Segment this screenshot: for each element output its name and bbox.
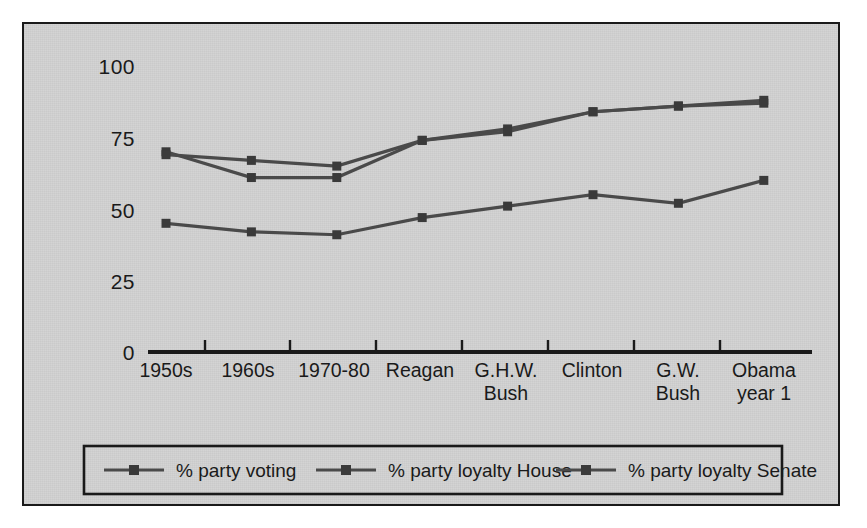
series-line-2 xyxy=(166,100,764,177)
data-point-marker xyxy=(674,199,683,208)
data-point-marker xyxy=(503,127,512,136)
x-tick-label-6-line1: G.W. xyxy=(656,359,699,381)
data-point-marker xyxy=(759,99,768,108)
data-point-marker xyxy=(162,150,171,159)
data-point-marker xyxy=(247,227,256,236)
data-point-marker xyxy=(418,136,427,145)
x-tick-label-1-line1: 1960s xyxy=(221,359,274,381)
legend-entry-party-loyalty-senate[interactable]: % party loyalty Senate xyxy=(556,460,817,481)
x-tick-label-0-line1: 1950s xyxy=(139,359,192,381)
legend-entry-party-loyalty-house[interactable]: % party loyalty House xyxy=(316,460,572,481)
chart-figure: 100 75 50 25 0 1950s 1960s 1970-80 R xyxy=(0,0,867,528)
x-tick-label-2-line1: 1970-80 xyxy=(298,359,370,381)
x-tick-label-6-line2: Bush xyxy=(656,382,700,404)
y-tick-label-0: 0 xyxy=(123,341,135,364)
data-point-marker xyxy=(332,173,341,182)
legend-square-marker-0 xyxy=(129,465,139,475)
y-tick-label-25: 25 xyxy=(111,270,135,293)
data-point-marker xyxy=(162,219,171,228)
y-axis-labels: 100 75 50 25 0 xyxy=(98,55,135,364)
data-point-marker xyxy=(759,176,768,185)
data-point-marker xyxy=(589,190,598,199)
y-tick-label-50: 50 xyxy=(111,199,135,222)
x-tick-label-4-line1: G.H.W. xyxy=(475,359,538,381)
x-tick-label-4-line2: Bush xyxy=(484,382,528,404)
data-point-marker xyxy=(674,102,683,111)
chart-plot-area: 100 75 50 25 0 1950s 1960s 1970-80 R xyxy=(0,0,867,528)
x-tick-label-5-line1: Clinton xyxy=(562,359,623,381)
data-point-marker xyxy=(418,213,427,222)
data-point-marker xyxy=(503,202,512,211)
x-tick-label-3-line1: Reagan xyxy=(386,359,454,381)
series-3 xyxy=(162,99,769,171)
y-tick-label-100: 100 xyxy=(98,55,135,78)
data-series-group xyxy=(162,96,769,239)
data-point-marker xyxy=(589,107,598,116)
legend-label-0: % party voting xyxy=(176,460,296,481)
data-point-marker xyxy=(247,173,256,182)
y-tick-label-75: 75 xyxy=(111,127,135,150)
x-tick-label-7-line2: year 1 xyxy=(737,382,791,404)
data-point-marker xyxy=(247,156,256,165)
legend-label-1: % party loyalty House xyxy=(388,460,572,481)
series-1 xyxy=(162,176,769,239)
data-point-marker xyxy=(332,162,341,171)
x-tick-label-7-line1: Obama xyxy=(732,359,796,381)
legend-square-marker-1 xyxy=(341,465,351,475)
x-axis-labels: 1950s 1960s 1970-80 Reagan G.H.W. Bush C… xyxy=(139,359,796,404)
chart-legend: % party voting % party loyalty House % p… xyxy=(84,446,817,494)
data-point-marker xyxy=(332,230,341,239)
legend-square-marker-2 xyxy=(581,465,591,475)
legend-entry-party-voting[interactable]: % party voting xyxy=(104,460,296,481)
legend-label-2: % party loyalty Senate xyxy=(628,460,817,481)
